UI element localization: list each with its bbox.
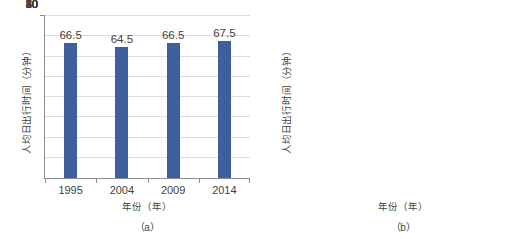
bar-slot: 66.5 (148, 16, 199, 178)
bar[interactable]: 67.5 (218, 41, 231, 178)
x-axis-tick-slot (45, 178, 96, 183)
chart-figure-b: 人均日出行时间（分钟） 020406080100 76.473.974.184 … (258, 0, 515, 239)
bar-value-label: 67.5 (213, 27, 235, 39)
x-axis-title-a: 年份（年） (44, 199, 250, 213)
x-axis-tick-slot (96, 178, 147, 183)
x-axis-tick (249, 178, 250, 183)
x-axis-tick (199, 178, 200, 183)
bar[interactable]: 66.5 (167, 43, 180, 178)
x-axis-tick-slot (199, 178, 250, 183)
plot-area-a: 01020304050607080 66.564.566.567.5 19952… (44, 16, 250, 179)
y-axis-tick-label: 80 (26, 0, 38, 10)
x-axis-labels-a: 1995200420092014 (45, 184, 250, 196)
x-axis-ticks-a (45, 178, 250, 183)
bar-value-label: 66.5 (59, 29, 81, 41)
figure-page: 人均日出行时间（分钟） 01020304050607080 66.564.566… (0, 0, 515, 239)
bar-slot: 67.5 (199, 16, 250, 178)
figure-caption-b: （b） (303, 219, 503, 234)
bar-value-label: 64.5 (111, 33, 133, 45)
x-axis-tick (45, 178, 46, 183)
x-axis-tick (96, 178, 97, 183)
chart-figure-a: 人均日出行时间（分钟） 01020304050607080 66.564.566… (0, 0, 258, 239)
x-axis-tick-label: 1995 (45, 184, 96, 196)
y-axis-title-b: 人均日出行时间（分钟） (279, 15, 293, 185)
x-axis-tick-slot (148, 178, 199, 183)
y-axis-title-a: 人均日出行时间（分钟） (19, 15, 33, 185)
x-axis-tick-label: 2009 (148, 184, 199, 196)
figure-caption-a: （a） (44, 219, 250, 234)
bar[interactable]: 64.5 (115, 47, 128, 178)
bar-slot: 64.5 (96, 16, 147, 178)
bar-series-a: 66.564.566.567.5 (45, 16, 250, 178)
bar-slot: 66.5 (45, 16, 96, 178)
x-axis-title-b: 年份（年） (303, 199, 503, 213)
bar-value-label: 66.5 (162, 29, 184, 41)
x-axis-tick-label: 2014 (199, 184, 250, 196)
bar[interactable]: 66.5 (64, 43, 77, 178)
x-axis-tick-label: 2004 (96, 184, 147, 196)
x-axis-tick (148, 178, 149, 183)
